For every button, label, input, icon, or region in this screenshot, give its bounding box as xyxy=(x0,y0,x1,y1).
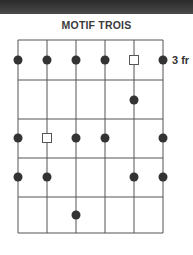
finger-dot xyxy=(14,134,23,143)
finger-dot xyxy=(101,56,110,65)
finger-dot xyxy=(130,173,139,182)
finger-dot xyxy=(72,56,81,65)
root-square-marker xyxy=(130,56,139,65)
fretboard-diagram xyxy=(0,0,193,255)
finger-dot xyxy=(159,173,168,182)
fret-position-label: 3 fr xyxy=(172,54,189,66)
finger-dot xyxy=(14,56,23,65)
finger-dot xyxy=(72,211,81,220)
finger-dot xyxy=(159,56,168,65)
root-square-marker xyxy=(43,134,52,143)
finger-dot xyxy=(14,173,23,182)
finger-dot xyxy=(101,134,110,143)
finger-dot xyxy=(130,96,139,105)
finger-dot xyxy=(72,134,81,143)
finger-dot xyxy=(43,173,52,182)
finger-dot xyxy=(43,56,52,65)
finger-dot xyxy=(159,134,168,143)
